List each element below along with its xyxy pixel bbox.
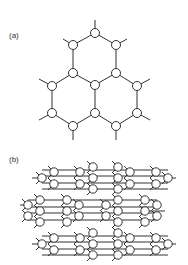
node-circle bbox=[126, 168, 134, 176]
node-circle bbox=[112, 122, 121, 131]
branch-tick bbox=[112, 227, 115, 230]
branch-tick bbox=[87, 161, 90, 164]
node-circle bbox=[75, 212, 83, 220]
node-circle bbox=[50, 246, 58, 254]
node-circle bbox=[63, 196, 71, 204]
panel-b-layered-network bbox=[20, 161, 176, 261]
node-circle bbox=[102, 201, 110, 209]
node-circle bbox=[152, 234, 160, 242]
node-circle bbox=[126, 234, 134, 242]
node-circle bbox=[114, 229, 122, 237]
branch-tick bbox=[112, 194, 115, 197]
node-circle bbox=[69, 69, 78, 78]
branch-tick bbox=[112, 216, 115, 219]
node-circle bbox=[36, 218, 44, 226]
branch-tick bbox=[124, 232, 127, 235]
branch-tick bbox=[124, 244, 127, 247]
branch-tick bbox=[74, 232, 77, 235]
node-circle bbox=[69, 122, 78, 131]
node-circle bbox=[114, 218, 122, 226]
node-circle bbox=[89, 163, 97, 171]
node-circle bbox=[50, 234, 58, 242]
branch-tick bbox=[87, 258, 90, 261]
branch-tick bbox=[61, 194, 64, 197]
node-circle bbox=[114, 196, 122, 204]
branch-tick bbox=[22, 219, 25, 222]
branch-tick bbox=[87, 192, 90, 195]
node-circle bbox=[50, 168, 58, 176]
node-circle bbox=[152, 180, 160, 188]
node-circle bbox=[153, 201, 161, 209]
node-circle bbox=[69, 41, 78, 50]
branch-tick bbox=[139, 216, 142, 219]
node-circle bbox=[63, 207, 71, 215]
node-circle bbox=[38, 240, 46, 248]
branch-tick bbox=[61, 216, 64, 219]
node-circle bbox=[36, 196, 44, 204]
branch-tick bbox=[74, 166, 77, 169]
node-circle bbox=[141, 196, 149, 204]
node-circle bbox=[126, 246, 134, 254]
branch-tick bbox=[74, 178, 77, 181]
branch-tick bbox=[112, 238, 115, 241]
branch-tick bbox=[48, 232, 51, 235]
node-circle bbox=[102, 212, 110, 220]
branch-tick bbox=[48, 178, 51, 181]
branch-tick bbox=[22, 199, 25, 202]
molecular-network-diagram bbox=[0, 0, 188, 265]
branch-tick bbox=[112, 258, 115, 261]
branch-tick bbox=[139, 194, 142, 197]
node-circle bbox=[76, 168, 84, 176]
node-circle bbox=[141, 218, 149, 226]
node-circle bbox=[91, 81, 100, 90]
branch-tick bbox=[162, 172, 165, 175]
branch-tick bbox=[112, 161, 115, 164]
node-circle bbox=[75, 201, 83, 209]
branch-tick bbox=[34, 225, 37, 228]
node-circle bbox=[50, 180, 58, 188]
branch-tick bbox=[112, 172, 115, 175]
node-circle bbox=[89, 251, 97, 259]
node-circle bbox=[114, 163, 122, 171]
branch-tick bbox=[34, 194, 37, 197]
branch-tick bbox=[139, 225, 142, 228]
panel-a-hexagonal-network bbox=[39, 20, 150, 140]
branch-tick bbox=[61, 225, 64, 228]
node-circle bbox=[76, 234, 84, 242]
node-circle bbox=[24, 212, 32, 220]
branch-tick bbox=[87, 238, 90, 241]
node-circle bbox=[114, 185, 122, 193]
branch-tick bbox=[48, 166, 51, 169]
node-circle bbox=[24, 201, 32, 209]
branch-tick bbox=[162, 238, 165, 241]
node-circle bbox=[63, 218, 71, 226]
branch-tick bbox=[36, 181, 39, 184]
branch-tick bbox=[124, 178, 127, 181]
node-circle bbox=[114, 240, 122, 248]
node-circle bbox=[112, 41, 121, 50]
node-circle bbox=[91, 29, 100, 38]
branch-tick bbox=[36, 238, 39, 241]
node-circle bbox=[152, 168, 160, 176]
branch-tick bbox=[124, 166, 127, 169]
branch-tick bbox=[87, 227, 90, 230]
node-circle bbox=[48, 109, 57, 118]
node-circle bbox=[76, 180, 84, 188]
branch-tick bbox=[48, 244, 51, 247]
node-circle bbox=[48, 82, 57, 91]
branch-tick bbox=[150, 166, 153, 169]
node-circle bbox=[133, 109, 142, 118]
node-circle bbox=[153, 212, 161, 220]
node-circle bbox=[89, 240, 97, 248]
branch-tick bbox=[150, 178, 153, 181]
node-circle bbox=[114, 207, 122, 215]
node-circle bbox=[114, 174, 122, 182]
branch-tick bbox=[74, 244, 77, 247]
node-circle bbox=[126, 180, 134, 188]
node-circle bbox=[112, 69, 121, 78]
node-circle bbox=[38, 174, 46, 182]
branch-tick bbox=[150, 232, 153, 235]
node-circle bbox=[152, 246, 160, 254]
node-circle bbox=[89, 174, 97, 182]
branch-tick bbox=[22, 210, 25, 213]
